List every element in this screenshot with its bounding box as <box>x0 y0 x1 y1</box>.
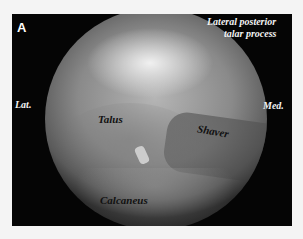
lateral-posterior-talar-process-label-line2: talar process <box>224 29 277 39</box>
lateral-posterior-talar-process-label-line1: Lateral posterior <box>207 17 276 27</box>
medial-label: Med. <box>263 101 284 111</box>
panel-label: A <box>17 20 26 35</box>
lateral-label: Lat. <box>15 100 31 110</box>
calcaneus-region <box>75 168 235 226</box>
arthroscopic-image-frame <box>12 14 292 226</box>
calcaneus-label: Calcaneus <box>100 195 148 206</box>
talus-label: Talus <box>98 114 123 125</box>
arthroscope-view <box>45 14 267 226</box>
